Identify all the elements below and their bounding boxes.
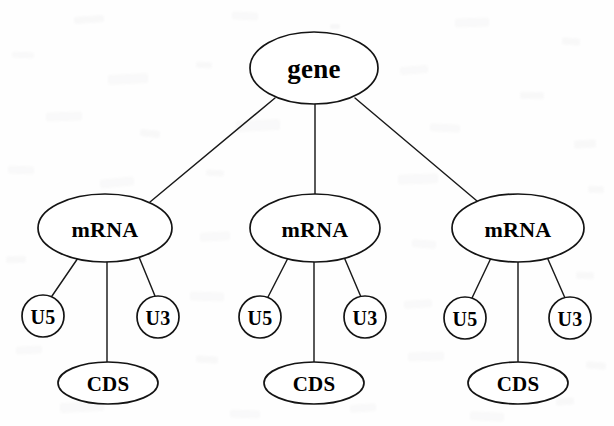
node-gene[interactable]: gene (250, 32, 378, 104)
diagram-canvas: genemRNAU5U3CDSmRNAU5U3CDSmRNAU5U3CDS (0, 0, 614, 426)
tree-diagram: genemRNAU5U3CDSmRNAU5U3CDSmRNAU5U3CDS (0, 0, 614, 426)
node-label-u5-1: U5 (31, 306, 56, 328)
node-u5-3[interactable]: U5 (444, 297, 486, 339)
node-cds-3[interactable]: CDS (468, 362, 568, 404)
edge-mrna-1-u5 (52, 258, 78, 296)
edge-mrna-3-u5 (472, 258, 491, 298)
node-label-mrna-3: mRNA (485, 217, 552, 242)
node-label-cds-2: CDS (293, 372, 336, 396)
node-mrna-1[interactable]: mRNA (38, 194, 172, 262)
node-u5-1[interactable]: U5 (22, 295, 64, 337)
node-label-mrna-1: mRNA (72, 217, 139, 242)
edge-mrna-2-u5 (268, 258, 288, 297)
node-label-mrna-2: mRNA (282, 217, 349, 242)
node-cds-2[interactable]: CDS (264, 362, 364, 404)
node-label-gene: gene (287, 54, 340, 84)
edge-mrna-3-u3 (547, 257, 565, 298)
node-u5-2[interactable]: U5 (239, 296, 281, 338)
edge-mrna-1-u3 (139, 257, 155, 296)
node-cds-1[interactable]: CDS (58, 362, 158, 404)
node-mrna-2[interactable]: mRNA (250, 194, 380, 262)
node-label-u3-1: U3 (146, 307, 171, 329)
node-label-cds-1: CDS (87, 372, 130, 396)
node-label-u5-3: U5 (453, 308, 478, 330)
node-u3-3[interactable]: U3 (549, 297, 591, 339)
edge-mrna-2-u3 (344, 257, 361, 297)
edge-gene-mrna-3 (355, 98, 477, 201)
node-u3-2[interactable]: U3 (344, 296, 386, 338)
node-label-u3-2: U3 (353, 307, 378, 329)
node-label-u5-2: U5 (248, 307, 273, 329)
node-u3-1[interactable]: U3 (137, 296, 179, 338)
edge-gene-mrna-1 (150, 98, 275, 202)
node-mrna-3[interactable]: mRNA (452, 194, 584, 262)
node-label-cds-3: CDS (497, 372, 540, 396)
node-label-u3-3: U3 (558, 308, 583, 330)
